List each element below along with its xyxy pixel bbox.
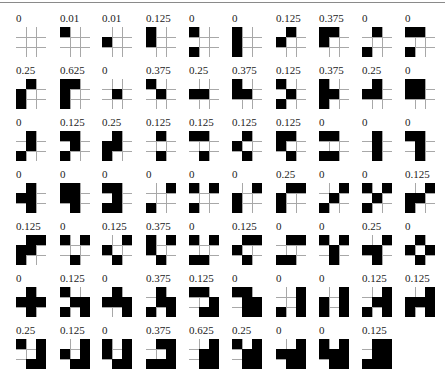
gridline-horizontal bbox=[146, 99, 176, 100]
filled-cell bbox=[372, 193, 382, 203]
filled-cell bbox=[102, 349, 112, 359]
pattern-value-label: 0.25 bbox=[232, 324, 251, 336]
gridline-vertical bbox=[199, 27, 200, 57]
pattern-value-label: 0.125 bbox=[60, 272, 85, 284]
filled-cell bbox=[60, 89, 70, 99]
filled-cell bbox=[329, 131, 339, 141]
filled-cell bbox=[329, 349, 339, 359]
filled-cell bbox=[166, 359, 176, 369]
pattern-glyph bbox=[405, 287, 435, 317]
pattern-glyph bbox=[232, 183, 262, 213]
pattern-value-label: 0.125 bbox=[405, 272, 430, 284]
pattern-glyph bbox=[362, 27, 392, 57]
pattern-item: 0.375 bbox=[146, 272, 186, 322]
filled-cell bbox=[372, 79, 382, 89]
pattern-item: 0 bbox=[60, 168, 100, 218]
pattern-glyph bbox=[16, 79, 46, 109]
filled-cell bbox=[242, 151, 252, 161]
filled-cell bbox=[362, 245, 372, 255]
pattern-value-label: 0.125 bbox=[146, 12, 171, 24]
filled-cell bbox=[199, 89, 209, 99]
filled-cell bbox=[102, 141, 112, 151]
filled-cell bbox=[415, 141, 425, 151]
filled-cell bbox=[339, 183, 349, 193]
pattern-item: 0.125 bbox=[189, 272, 229, 322]
filled-cell bbox=[146, 359, 156, 369]
gridline-vertical bbox=[209, 131, 210, 161]
pattern-value-label: 0.125 bbox=[16, 220, 41, 232]
filled-cell bbox=[329, 255, 339, 265]
filled-cell bbox=[425, 183, 435, 193]
filled-cell bbox=[286, 89, 296, 99]
filled-cell bbox=[70, 203, 80, 213]
gridline-vertical bbox=[242, 183, 243, 213]
filled-cell bbox=[146, 235, 156, 245]
pattern-value-label: 0.625 bbox=[60, 64, 85, 76]
filled-cell bbox=[382, 235, 392, 245]
gridline-vertical bbox=[36, 79, 37, 109]
filled-cell bbox=[319, 27, 329, 37]
filled-cell bbox=[286, 183, 296, 193]
filled-cell bbox=[70, 297, 80, 307]
filled-cell bbox=[102, 297, 112, 307]
filled-cell bbox=[199, 255, 209, 265]
pattern-value-label: 0.125 bbox=[276, 12, 301, 24]
filled-cell bbox=[189, 255, 199, 265]
pattern-glyph bbox=[319, 235, 349, 265]
pattern-item: 0 bbox=[16, 116, 56, 166]
gridline-horizontal bbox=[146, 193, 176, 194]
pattern-glyph bbox=[232, 79, 262, 109]
pattern-item: 0.375 bbox=[232, 64, 272, 114]
pattern-value-label: 0.125 bbox=[362, 324, 387, 336]
pattern-item: 0 bbox=[405, 12, 445, 62]
gridline-horizontal bbox=[232, 99, 262, 100]
gridline-vertical bbox=[166, 131, 167, 161]
filled-cell bbox=[60, 27, 70, 37]
pattern-value-label: 0 bbox=[362, 12, 368, 24]
filled-cell bbox=[362, 359, 372, 369]
pattern-item: 0 bbox=[405, 64, 445, 114]
filled-cell bbox=[382, 349, 392, 359]
pattern-glyph bbox=[189, 339, 219, 369]
filled-cell bbox=[319, 89, 329, 99]
filled-cell bbox=[362, 203, 372, 213]
filled-cell bbox=[80, 235, 90, 245]
filled-cell bbox=[276, 79, 286, 89]
pattern-value-label: 0.25 bbox=[16, 324, 35, 336]
pattern-glyph bbox=[60, 79, 90, 109]
pattern-glyph bbox=[405, 79, 435, 109]
pattern-value-label: 0.125 bbox=[362, 272, 387, 284]
pattern-value-label: 0.125 bbox=[60, 116, 85, 128]
pattern-item: 0 bbox=[276, 272, 316, 322]
pattern-item: 0.25 bbox=[362, 220, 402, 270]
filled-cell bbox=[242, 349, 252, 359]
filled-cell bbox=[102, 203, 112, 213]
filled-cell bbox=[382, 359, 392, 369]
filled-cell bbox=[372, 27, 382, 37]
filled-cell bbox=[146, 203, 156, 213]
filled-cell bbox=[26, 287, 36, 297]
gridline-vertical bbox=[296, 27, 297, 57]
gridline-horizontal bbox=[60, 245, 90, 246]
filled-cell bbox=[70, 141, 80, 151]
filled-cell bbox=[112, 89, 122, 99]
filled-cell bbox=[415, 79, 425, 89]
gridline-vertical bbox=[156, 183, 157, 213]
filled-cell bbox=[199, 131, 209, 141]
pattern-item: 0 bbox=[362, 12, 402, 62]
pattern-item: 0.125 bbox=[276, 64, 316, 114]
filled-cell bbox=[16, 255, 26, 265]
gridline-vertical bbox=[425, 79, 426, 109]
pattern-value-label: 0.125 bbox=[146, 116, 171, 128]
gridline-horizontal bbox=[405, 37, 435, 38]
gridline-vertical bbox=[296, 79, 297, 109]
gridline-vertical bbox=[122, 183, 123, 213]
filled-cell bbox=[276, 203, 286, 213]
pattern-glyph bbox=[146, 79, 176, 109]
pattern-glyph bbox=[276, 27, 306, 57]
gridline-horizontal bbox=[146, 141, 176, 142]
gridline-vertical bbox=[199, 183, 200, 213]
filled-cell bbox=[232, 203, 242, 213]
pattern-item: 0 bbox=[276, 220, 316, 270]
filled-cell bbox=[276, 349, 286, 359]
